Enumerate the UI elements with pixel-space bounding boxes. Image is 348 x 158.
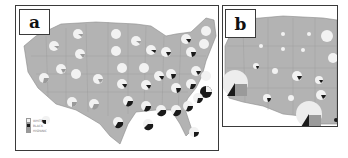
legend-label: BLACK	[33, 124, 43, 128]
legend: WHITE BLACK HISPANIC	[26, 118, 47, 133]
legend-item-hispanic: HISPANIC	[26, 128, 47, 133]
legend-swatch-hispanic	[26, 128, 31, 133]
panel-b: b	[222, 5, 338, 127]
panel-a-label: a	[19, 9, 50, 35]
legend-label: HISPANIC	[33, 129, 47, 133]
panel-a: a	[15, 5, 219, 151]
panel-b-label: b	[225, 9, 256, 38]
legend-label: WHITE	[33, 119, 43, 123]
